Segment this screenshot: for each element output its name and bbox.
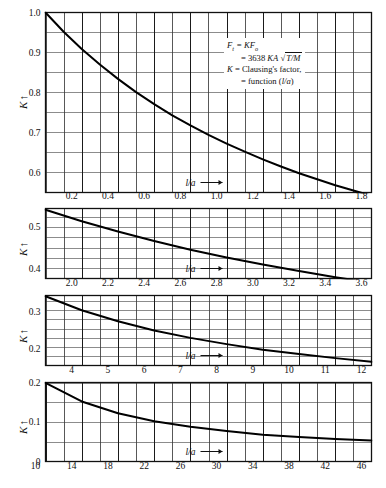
x-tick-label: 30: [212, 461, 222, 471]
x-tick-label: 3.4: [319, 278, 331, 288]
curve-panel-2: [46, 210, 372, 283]
x-tick-label: 2.4: [138, 278, 150, 288]
x-axis-label: l/a: [185, 447, 195, 457]
x-axis-arrow: [201, 449, 223, 454]
x-tick-label: 2.2: [102, 278, 114, 288]
panel-4: [46, 383, 372, 462]
x-axis-label: l/a: [185, 264, 195, 274]
x-tick-label: 1.8: [356, 191, 368, 201]
x-tick-label: 8: [214, 365, 219, 375]
y-tick-label: 0.6: [29, 168, 41, 178]
x-tick-label: 11: [321, 365, 330, 375]
formula-annotation: Ft = KFo = 3638 KA √T/M K = Clausing's f…: [224, 38, 305, 89]
x-tick-label: 0.8: [174, 191, 186, 201]
x-tick-label: 10: [284, 365, 294, 375]
x-axis-arrow: [201, 266, 223, 271]
y-tick-label: 0.1: [29, 417, 41, 427]
formula-line-2: = 3638 KA √T/M: [227, 53, 302, 64]
panel-3-y-axis-label: K ↑: [17, 329, 29, 343]
x-tick-label: 0.2: [66, 191, 78, 201]
x-axis-arrow: [201, 180, 223, 185]
formula-line-4: = function (l/a): [227, 76, 302, 87]
x-axis-label: l/a: [185, 351, 195, 361]
x-tick-label: 2.6: [174, 278, 186, 288]
x-tick-label: 18: [103, 461, 113, 471]
y-tick-label: 0.7: [29, 128, 41, 138]
panel-3: [46, 296, 372, 366]
x-tick-label: 2.8: [211, 278, 223, 288]
x-tick-label: 26: [176, 461, 186, 471]
y-tick-label: 0.2: [29, 344, 41, 354]
x-tick-label: 7: [178, 365, 183, 375]
x-axis-arrow: [201, 353, 223, 358]
x-tick-label: 3.6: [356, 278, 368, 288]
x-tick-label: 42: [321, 461, 331, 471]
y-tick-label: 0.4: [29, 264, 41, 274]
x-tick-label: 22: [139, 461, 149, 471]
x-tick-label: 3.2: [283, 278, 295, 288]
x-tick-label: 2.0: [66, 278, 78, 288]
x-tick-label: 6: [142, 365, 147, 375]
x-tick-label: 1.2: [247, 191, 259, 201]
x-tick-label: 38: [284, 461, 294, 471]
y-tick-label: 0.3: [29, 307, 41, 317]
x-tick-label: 46: [357, 461, 367, 471]
curve-panel-3: [46, 296, 372, 362]
x-tick-label: 34: [248, 461, 258, 471]
x-axis-label: l/a: [185, 178, 195, 188]
x-tick-label: 4: [69, 365, 74, 375]
panel-4-y-axis-label: K ↑: [17, 420, 29, 434]
panel-frame: [46, 383, 372, 462]
panel-1: [46, 13, 372, 196]
chart-canvas: 0.60.70.80.91.00.20.40.60.81.01.21.41.61…: [0, 0, 386, 488]
panel-2: [46, 209, 372, 283]
x-tick-label: 1.0: [211, 191, 223, 201]
x-tick-label: 1.4: [283, 191, 295, 201]
x-tick-label: 1.6: [319, 191, 331, 201]
x-tick-label: 3.0: [247, 278, 259, 288]
formula-line-1: Ft = KFo: [227, 40, 302, 53]
panel-1-y-axis-label: K ↑: [17, 95, 29, 109]
formula-line-3: K = Clausing's factor,: [227, 64, 302, 75]
x-tick-label: 0.4: [102, 191, 114, 201]
panel-2-y-axis-label: K ↑: [17, 242, 29, 256]
curve-panel-4: [46, 383, 372, 441]
x-tick-label: 5: [106, 365, 111, 375]
clausing-factor-chart: 0.60.70.80.91.00.20.40.60.81.01.21.41.61…: [0, 0, 386, 488]
y-tick-label: 0.8: [29, 88, 41, 98]
x-tick-label: 10: [31, 461, 41, 471]
y-tick-label: 0.9: [29, 48, 41, 58]
y-tick-label: 0.5: [29, 222, 41, 232]
x-tick-label: 0.6: [138, 191, 150, 201]
x-tick-label: 12: [357, 365, 367, 375]
x-tick-label: 9: [250, 365, 255, 375]
y-tick-label: 0.2: [29, 378, 41, 388]
y-tick-label: 1.0: [29, 8, 41, 18]
x-tick-label: 14: [67, 461, 77, 471]
